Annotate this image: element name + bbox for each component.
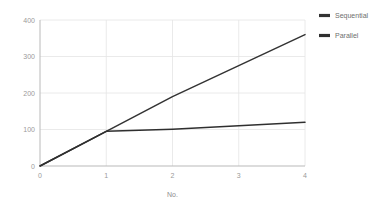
y-tick-labels: 400 300 200 100 0 xyxy=(23,17,35,170)
y-tick-label-100: 100 xyxy=(23,126,35,133)
y-tick-label-300: 300 xyxy=(23,53,35,60)
line-chart: 400 300 200 100 0 0 1 2 3 4 No. Sequenti… xyxy=(0,0,379,209)
x-tick-label-4: 4 xyxy=(303,172,307,179)
y-tick-label-200: 200 xyxy=(23,90,35,97)
y-tick-label-400: 400 xyxy=(23,17,35,24)
legend-item-parallel[interactable]: Parallel xyxy=(319,32,359,39)
y-tick-label-0: 0 xyxy=(31,163,35,170)
chart-canvas: 400 300 200 100 0 0 1 2 3 4 No. Sequenti… xyxy=(0,0,379,209)
x-tick-label-3: 3 xyxy=(237,172,241,179)
x-tick-label-1: 1 xyxy=(104,172,108,179)
x-tick-labels: 0 1 2 3 4 xyxy=(38,172,307,179)
x-tick-label-2: 2 xyxy=(171,172,175,179)
x-tick-label-0: 0 xyxy=(38,172,42,179)
legend-item-sequential[interactable]: Sequential xyxy=(319,12,369,20)
legend-label-sequential: Sequential xyxy=(335,12,369,20)
legend-label-parallel: Parallel xyxy=(335,32,359,39)
x-axis-title: No. xyxy=(167,191,178,198)
legend: Sequential Parallel xyxy=(319,12,369,39)
